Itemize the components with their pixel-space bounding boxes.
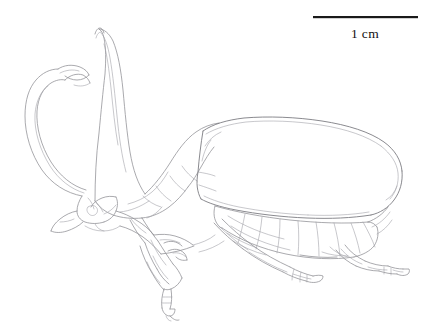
- scutellum: [198, 172, 216, 191]
- scale-bar: 1 cm: [313, 16, 418, 41]
- beetle-illustration: 1 cm: [0, 0, 435, 329]
- scale-bar-label: 1 cm: [351, 26, 379, 41]
- figure-root: 1 cm: [0, 0, 435, 329]
- midleg: [214, 219, 323, 283]
- thoracic-horn: [95, 28, 145, 201]
- cephalic-horn: [25, 65, 90, 196]
- ventral-contours: [161, 233, 348, 257]
- scale-bar-rule: [313, 16, 418, 18]
- horn-base-detail: [88, 198, 116, 214]
- foreleg: [130, 218, 187, 321]
- elytron: [197, 117, 402, 218]
- pygidium: [368, 207, 392, 234]
- head-capsule: [51, 196, 120, 233]
- pronotum: [95, 123, 219, 218]
- hindleg: [336, 245, 409, 276]
